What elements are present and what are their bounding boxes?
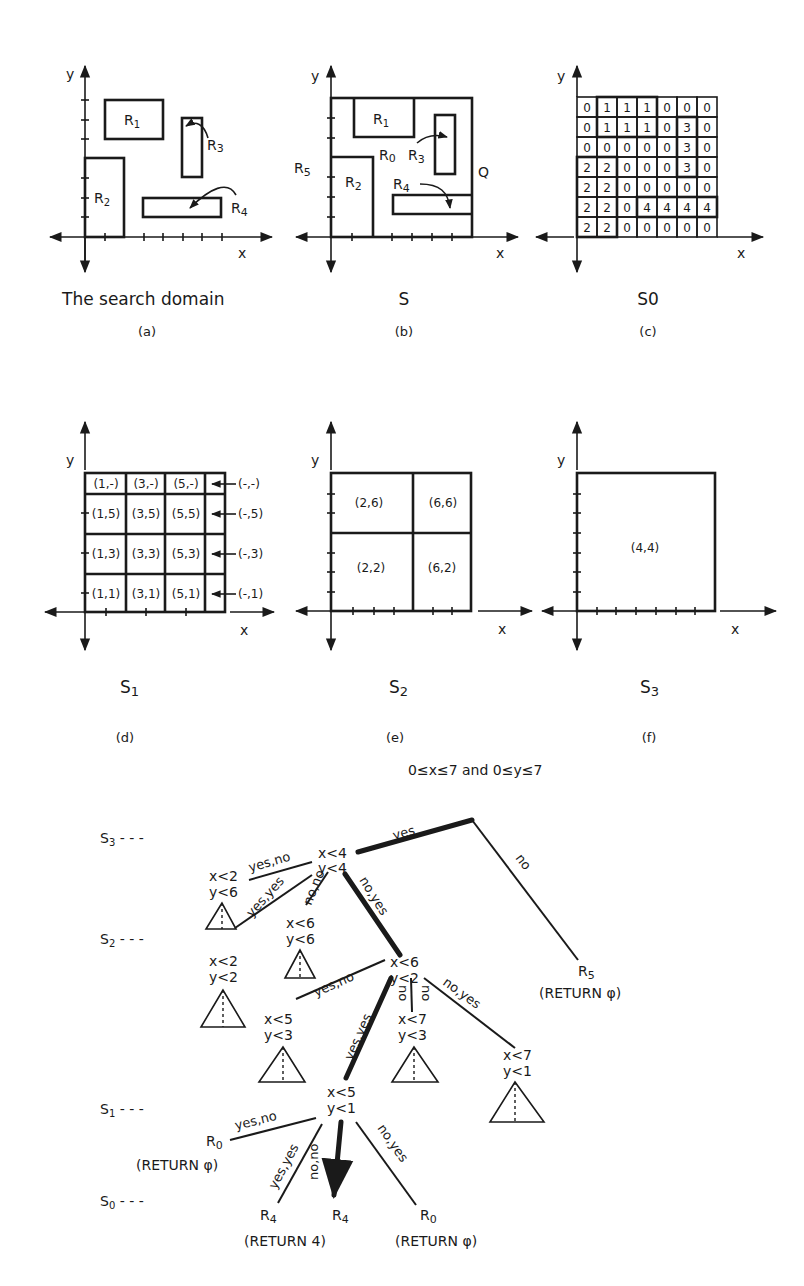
edge-label-yes-no: yes,no (247, 849, 292, 875)
s1-cell-label: (5,1) (172, 587, 200, 601)
panel-e-s2-grid: y x (2,6) (6,6) (2,2) (6,2) S2 (e) (296, 422, 532, 745)
s0-cell-value: 2 (583, 181, 591, 195)
node-n73-line1: x<7 (398, 1011, 427, 1027)
s1-boundary-label: (-,1) (238, 587, 263, 601)
s0-cell-value: 1 (643, 101, 651, 115)
leaf-r5-return: (RETURN φ) (539, 985, 621, 1001)
y-axis-label: y (311, 452, 319, 468)
region-r2-label: R2 (94, 190, 110, 208)
panel-b-sublabel: (b) (395, 324, 413, 339)
node-n71-line1: x<7 (503, 1047, 532, 1063)
s0-cell-value: 0 (663, 181, 671, 195)
s0-cell-value: 0 (703, 161, 711, 175)
panel-a-sublabel: (a) (138, 324, 156, 339)
node-n71-line2: y<1 (503, 1063, 532, 1079)
level-label-s0: S0 - - - (100, 1193, 144, 1211)
s0-cell-value: 0 (623, 221, 631, 235)
y-axis-label: y (66, 66, 74, 82)
s0-cell-value: 1 (623, 101, 631, 115)
leaf-r4-return: (RETURN 4) (244, 1233, 326, 1249)
edge-label-no-no: no,no (306, 1143, 321, 1180)
node-n53-line1: x<5 (264, 1011, 293, 1027)
region-r3 (182, 118, 202, 177)
x-axis-label: x (496, 245, 504, 261)
y-axis-label: y (311, 68, 319, 84)
region-r3-label: R3 (408, 147, 425, 166)
node-n26-line1: x<2 (209, 868, 238, 884)
s0-cell-value: 0 (703, 101, 711, 115)
subtree-triangle-icon (285, 950, 315, 978)
figure-canvas: y x R1 R2 R3 R4 The search domain (a) y … (0, 0, 804, 1286)
s0-cell-value: 4 (663, 201, 671, 215)
leaf-r0a-label: R0 (206, 1133, 223, 1152)
node-n66-line1: x<6 (286, 915, 315, 931)
edge-label-yes-no: yes,no (311, 969, 356, 1000)
node-n22-line1: x<2 (209, 953, 238, 969)
s0-cell-value: 0 (583, 101, 591, 115)
panel-c-sublabel: (c) (639, 324, 656, 339)
edge-label-yes-yes: yes,yes (341, 1011, 375, 1062)
s0-cell-value: 0 (583, 141, 591, 155)
s0-cell-value: 0 (623, 161, 631, 175)
s0-cell-value: 0 (663, 121, 671, 135)
s0-cell-value: 3 (683, 121, 691, 135)
edge-label-yes: yes (391, 823, 417, 843)
panel-a-caption: The search domain (61, 289, 225, 309)
region-r4-label: R4 (231, 200, 248, 219)
node-n66-line2: y<6 (286, 931, 315, 947)
region-r4-label: R4 (393, 176, 410, 195)
s0-cell-value: 0 (643, 221, 651, 235)
panel-c-s0-grid: y x 011100001110300000030220003022000002… (536, 66, 763, 339)
s0-cell-value: 0 (643, 181, 651, 195)
subtree-triangle-icon (201, 990, 245, 1027)
s0-cell-value: 0 (643, 141, 651, 155)
s0-cell-value: 0 (643, 161, 651, 175)
s1-cell-label: (1,5) (92, 507, 120, 521)
edge-label-no-yes: no,yes (375, 1121, 412, 1165)
leaf-r4b-label: R4 (332, 1207, 349, 1226)
region-r1-label: R1 (373, 111, 389, 129)
s0-cell-value: 2 (603, 161, 611, 175)
s0-cell-value: 1 (623, 121, 631, 135)
s1-cell-label: (3,5) (132, 507, 160, 521)
leaf-r5-label: R5 (578, 963, 595, 982)
node-n53-line2: y<3 (264, 1027, 293, 1043)
y-axis-label: y (557, 452, 565, 468)
node-n51-line2: y<1 (327, 1100, 356, 1116)
s1-cell-label: (5,3) (172, 547, 200, 561)
level-label-s2: S2 - - - (100, 931, 144, 949)
s0-cell-value: 2 (583, 161, 591, 175)
s0-cell-value: 2 (583, 201, 591, 215)
s0-cell-value: 2 (583, 221, 591, 235)
node-n62-line2: y<2 (390, 970, 419, 986)
panel-b-caption: S (399, 289, 410, 309)
region-q-label: Q (478, 164, 489, 180)
x-axis-label: x (498, 621, 506, 637)
s0-cell-value: 4 (643, 201, 651, 215)
panel-b-subdivision-s: y x R1 R2 R0 R3 R4 R5 Q S (b) (294, 66, 518, 339)
s1-cell-label: (3,3) (132, 547, 160, 561)
s1-cell-label: (5,5) (172, 507, 200, 521)
x-axis-label: x (737, 245, 745, 261)
s1-cell-labels: (1,-)(3,-)(5,-)(-,-)(1,5)(3,5)(5,5)(-,5)… (92, 477, 263, 601)
s1-cell-label: (3,-) (133, 477, 158, 491)
s0-cell-value: 0 (603, 141, 611, 155)
s2-cell-2-6: (2,6) (355, 496, 383, 510)
node-n51-line1: x<5 (327, 1084, 356, 1100)
leaf-r0b-return: (RETURN φ) (395, 1233, 477, 1249)
node-n62-line1: x<6 (390, 954, 419, 970)
level-label-s3: S3 - - - (100, 830, 144, 848)
panel-a-search-domain: y x R1 R2 R3 R4 The search domain (a) (50, 66, 272, 339)
subtree-triangle-icon (490, 1082, 544, 1122)
panel-d-s1-grid: y x (1,-)(3,-)(5,-)(-,-)(1,5)(3,5)(5,5)(… (45, 422, 274, 745)
s0-cell-value: 3 (683, 161, 691, 175)
region-r1-label: R1 (124, 112, 140, 130)
s0-cell-value: 0 (623, 181, 631, 195)
panel-f-caption: S3 (640, 677, 659, 699)
s0-cell-value: 0 (623, 201, 631, 215)
node-root-line2: y<4 (318, 860, 347, 876)
s0-cell-value: 0 (683, 181, 691, 195)
x-axis-label: x (731, 621, 739, 637)
axis-ticks (327, 494, 452, 615)
s0-cell-value: 0 (663, 141, 671, 155)
